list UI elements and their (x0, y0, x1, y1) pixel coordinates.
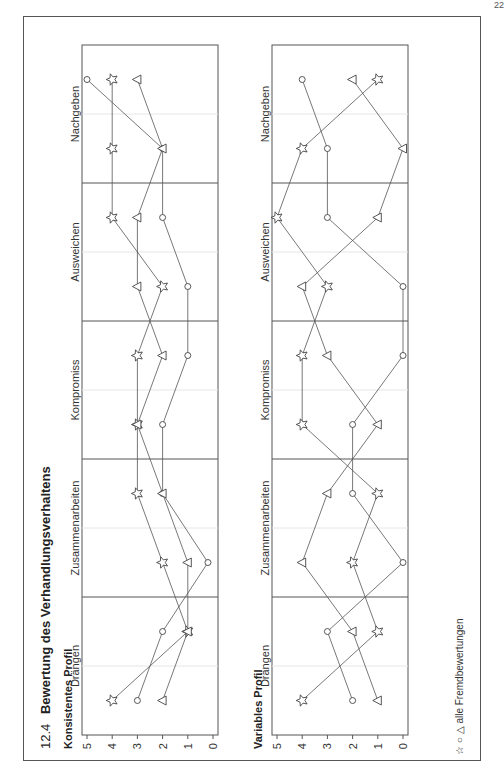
circle-marker-icon (400, 284, 406, 290)
triangle-marker-icon (348, 75, 357, 84)
star-marker-icon (106, 143, 117, 154)
y-tick-label: 1 (182, 743, 194, 749)
star-marker-icon (296, 143, 307, 154)
legend-triangle-icon: △ (454, 726, 465, 734)
star-marker-icon (321, 281, 332, 292)
triangle-marker-icon (297, 558, 306, 567)
circle-marker-icon (84, 77, 90, 83)
y-tick-label: 0 (397, 743, 409, 749)
category-label: Nachgeben (70, 86, 81, 142)
category-label: Ausweichen (70, 222, 81, 281)
section-heading: 12.4 Bewertung des Verhandlungsverhalten… (38, 466, 53, 749)
circle-marker-icon (400, 353, 406, 359)
star-marker-icon (131, 488, 142, 499)
triangle-marker-icon (132, 282, 141, 291)
star-marker-icon (131, 350, 142, 361)
y-tick-label: 5 (271, 743, 283, 749)
section-number: 12.4 (38, 724, 53, 749)
star-marker-icon (157, 557, 168, 568)
category-label: Nachgeben (260, 86, 271, 142)
legend: ☆ ○ △ alle Fremdbewertungen (454, 619, 465, 755)
star-marker-icon (106, 695, 117, 706)
star-marker-icon (157, 281, 168, 292)
y-tick-label: 4 (106, 743, 118, 749)
circle-marker-icon (299, 77, 305, 83)
circle-marker-icon (350, 422, 356, 428)
circle-marker-icon (350, 698, 356, 704)
circle-marker-icon (350, 491, 356, 497)
y-tick-label: 4 (296, 743, 308, 749)
triangle-marker-icon (297, 282, 306, 291)
circle-marker-icon (205, 560, 211, 566)
triangle-marker-icon (158, 696, 167, 705)
star-marker-icon (296, 695, 307, 706)
triangle-marker-icon (373, 420, 382, 429)
chart-variables-profil: DrängenZusammenarbeitenKompromissAusweic… (260, 0, 440, 775)
rotated-page: 12.4 Bewertung des Verhandlungsverhalten… (0, 0, 504, 775)
y-tick-label: 0 (207, 743, 219, 749)
category-label: Kompromiss (70, 359, 81, 421)
triangle-marker-icon (132, 75, 141, 84)
circle-marker-icon (134, 698, 140, 704)
category-label: Kompromiss (260, 359, 271, 421)
category-label: Ausweichen (260, 222, 271, 281)
circle-marker-icon (324, 146, 330, 152)
category-label: Drängen (260, 645, 271, 687)
y-tick-label: 2 (347, 743, 359, 749)
triangle-marker-icon (348, 627, 357, 636)
star-marker-icon (296, 419, 307, 430)
circle-marker-icon (400, 560, 406, 566)
triangle-marker-icon (132, 213, 141, 222)
star-marker-icon (347, 557, 358, 568)
legend-label: alle Fremdbewertungen (454, 619, 465, 724)
circle-marker-icon (324, 215, 330, 221)
y-tick-label: 1 (372, 743, 384, 749)
circle-marker-icon (324, 629, 330, 635)
circle-marker-icon (185, 353, 191, 359)
legend-star-icon: ☆ (454, 746, 465, 755)
y-tick-label: 2 (157, 743, 169, 749)
circle-marker-icon (160, 629, 166, 635)
star-marker-icon (106, 74, 117, 85)
chart-konsistentes-profil: DrängenZusammenarbeitenKompromissAusweic… (70, 0, 250, 775)
circle-marker-icon (160, 215, 166, 221)
circle-marker-icon (185, 284, 191, 290)
y-tick-label: 3 (131, 743, 143, 749)
section-title: Bewertung des Verhandlungsverhaltens (38, 466, 53, 714)
star-marker-icon (296, 350, 307, 361)
category-label: Zusammenarbeiten (260, 481, 271, 576)
y-tick-label: 5 (81, 743, 93, 749)
legend-circle-icon: ○ (454, 737, 465, 743)
category-label: Zusammenarbeiten (70, 481, 81, 576)
category-label: Drängen (70, 645, 81, 687)
circle-marker-icon (160, 422, 166, 428)
y-tick-label: 3 (321, 743, 333, 749)
